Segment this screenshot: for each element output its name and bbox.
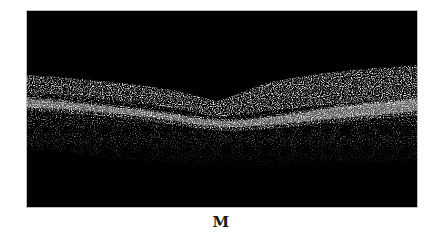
oct-scan-image <box>26 10 418 208</box>
panel-label: M <box>0 213 442 231</box>
retina-scan-graphic <box>27 11 418 208</box>
